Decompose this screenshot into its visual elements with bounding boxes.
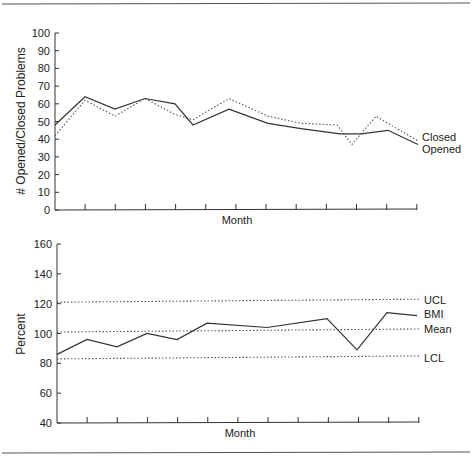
bottom-axes: 406080100120140160 (34, 238, 419, 429)
top-series (55, 97, 418, 145)
legend-lcl: LCL (424, 352, 444, 364)
y-tick-label: 100 (32, 27, 50, 39)
legend-opened: Opened (422, 143, 461, 155)
y-tick-label: 60 (40, 387, 52, 399)
chart-canvas: 0102030405060708090100 Month # Opened/Cl… (0, 0, 473, 458)
y-tick-label: 90 (38, 45, 50, 57)
legend-mean: Mean (424, 323, 452, 335)
series-bmi-line (57, 313, 417, 355)
y-tick-label: 120 (34, 298, 52, 310)
y-tick-label: 70 (38, 80, 50, 92)
top-y-axis-label: # Opened/Closed Problems (14, 47, 28, 194)
y-tick-label: 40 (40, 417, 52, 429)
series-opened-line (55, 97, 418, 145)
legend-closed: Closed (422, 131, 456, 143)
y-tick-label: 80 (40, 357, 52, 369)
legend-ucl: UCL (424, 294, 446, 306)
y-tick-label: 0 (44, 204, 50, 216)
series-mean-line (57, 329, 420, 332)
bottom-y-axis-label: Percent (14, 313, 28, 355)
y-tick-label: 10 (38, 186, 50, 198)
legend-bmi: BMI (424, 308, 444, 320)
y-tick-label: 140 (34, 268, 52, 280)
figure: 0102030405060708090100 Month # Opened/Cl… (0, 0, 473, 458)
y-tick-label: 80 (38, 62, 50, 74)
top-x-axis-label: Month (222, 214, 253, 226)
series-lcl-line (57, 356, 420, 359)
series-ucl-line (57, 299, 420, 302)
y-tick-label: 40 (38, 133, 50, 145)
series-closed-line (55, 99, 418, 145)
bottom-x-axis-label: Month (225, 427, 256, 439)
y-tick-label: 160 (34, 238, 52, 250)
y-tick-label: 60 (38, 98, 50, 110)
y-tick-label: 20 (38, 169, 50, 181)
bottom-rule (2, 452, 470, 453)
top-axes: 0102030405060708090100 (32, 27, 417, 216)
y-tick-label: 100 (34, 328, 52, 340)
opened-closed-chart: 0102030405060708090100 Month # Opened/Cl… (14, 27, 461, 226)
bmi-control-chart: 406080100120140160 Month Percent UCL BMI… (14, 238, 452, 439)
y-tick-label: 30 (38, 151, 50, 163)
top-rule (2, 3, 470, 4)
bottom-series (57, 299, 420, 359)
y-tick-label: 50 (38, 116, 50, 128)
